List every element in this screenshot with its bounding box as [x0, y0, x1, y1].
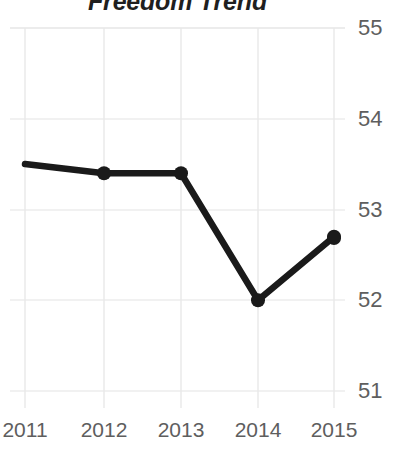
- data-point-2013: [251, 293, 265, 307]
- x-axis-tick-2013: 2013: [146, 419, 216, 440]
- horizontal-gridlines: [10, 28, 345, 391]
- data-point-2012: [174, 166, 188, 180]
- y-axis-tick-55: 55: [358, 17, 398, 39]
- chart-container: Freedom Trend 55 54 53 52 51 2011: [0, 0, 399, 449]
- line-series-freedom-trend: [25, 164, 334, 300]
- data-point-2015: [327, 231, 341, 245]
- x-axis-tick-2015: 2015: [299, 419, 369, 440]
- y-axis-tick-54: 54: [358, 108, 398, 130]
- x-axis-tick-2012: 2012: [69, 419, 139, 440]
- plot-area: [0, 0, 399, 449]
- vertical-gridlines: [25, 28, 334, 408]
- y-axis-tick-51: 51: [358, 380, 398, 402]
- x-axis-tick-2011: 2011: [0, 419, 60, 440]
- x-axis-tick-2014: 2014: [223, 419, 293, 440]
- data-point-2011: [97, 166, 111, 180]
- y-axis-tick-53: 53: [358, 199, 398, 221]
- y-axis-tick-52: 52: [358, 289, 398, 311]
